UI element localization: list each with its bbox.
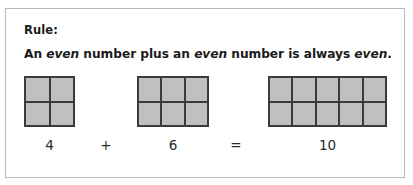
grid-cell: [317, 78, 338, 101]
equation-operator-equals: =: [214, 137, 258, 153]
grid-cell: [340, 103, 361, 126]
grid-cell: [139, 78, 160, 101]
statement-part-4: .: [387, 47, 392, 61]
equation-term-second: 6: [137, 137, 209, 153]
worksheet-page: Rule: An even number plus an even number…: [0, 0, 413, 185]
grid-cell: [51, 78, 74, 101]
statement-emphasis-2: even: [194, 47, 227, 61]
grid-cell: [51, 103, 74, 126]
grid-cell: [317, 103, 338, 126]
grid-cell: [139, 103, 160, 126]
grid-cell: [293, 103, 314, 126]
grid-cell: [26, 78, 49, 101]
rule-statement: An even number plus an even number is al…: [24, 47, 392, 61]
statement-part-3: number is always: [227, 47, 354, 61]
square-model-four: [24, 76, 75, 127]
grid-cell: [26, 103, 49, 126]
grid-cell: [186, 103, 207, 126]
statement-emphasis-3: even: [354, 47, 387, 61]
grid-cell: [186, 78, 207, 101]
statement-emphasis-1: even: [46, 47, 79, 61]
square-model-ten: [268, 76, 387, 127]
statement-part-2: number plus an: [79, 47, 194, 61]
equation-result: 10: [268, 137, 387, 153]
grid-cell: [340, 78, 361, 101]
grid-cell: [364, 103, 385, 126]
equation-term-first: 4: [24, 137, 75, 153]
grid-cell: [162, 103, 183, 126]
square-model-six: [137, 76, 209, 127]
equation-operator-plus: +: [86, 137, 126, 153]
rule-card: Rule: An even number plus an even number…: [5, 8, 405, 178]
grid-cell: [270, 78, 291, 101]
grid-cell: [270, 103, 291, 126]
rule-heading: Rule:: [24, 23, 58, 37]
grid-cell: [293, 78, 314, 101]
grid-cell: [364, 78, 385, 101]
statement-part-1: An: [24, 47, 46, 61]
grid-cell: [162, 78, 183, 101]
